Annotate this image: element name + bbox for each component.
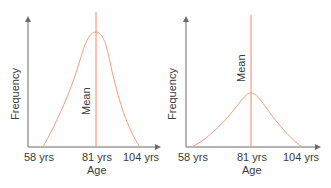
left-x-axis-label: Age (87, 164, 107, 176)
right-tick-104: 104 yrs (283, 151, 320, 163)
right-chart: Mean Frequency 58 yrs 81 yrs 104 yrs Age (166, 15, 320, 176)
right-mean-label: Mean (235, 54, 247, 82)
left-chart: Mean Frequency 58 yrs 81 yrs 104 yrs Age (9, 12, 160, 176)
left-y-axis-label: Frequency (9, 68, 21, 120)
left-tick-104: 104 yrs (123, 151, 160, 163)
distribution-charts: Mean Frequency 58 yrs 81 yrs 104 yrs Age… (0, 0, 331, 188)
left-tick-58: 58 yrs (24, 151, 54, 163)
left-mean-label: Mean (80, 87, 92, 115)
right-y-axis-label: Frequency (166, 68, 178, 120)
right-distribution-curve (192, 93, 302, 147)
left-tick-81: 81 yrs (82, 151, 112, 163)
right-tick-81: 81 yrs (237, 151, 267, 163)
right-tick-58: 58 yrs (178, 151, 208, 163)
right-x-axis-label: Age (242, 164, 262, 176)
